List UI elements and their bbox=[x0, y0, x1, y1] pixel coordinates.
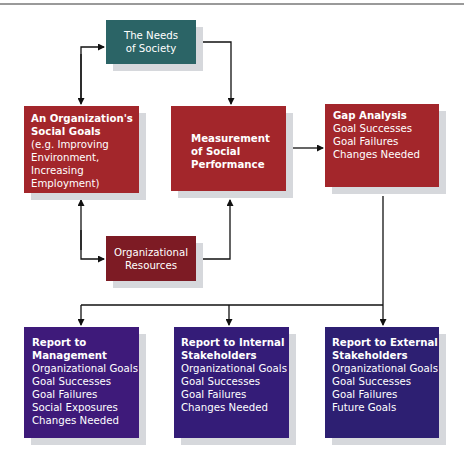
node-measurement-social-performance: Measurement of Social Performance bbox=[171, 106, 286, 191]
node-gap-analysis: Gap Analysis Goal Successes Goal Failure… bbox=[325, 104, 439, 187]
node-line: Social Exposures bbox=[32, 401, 139, 414]
node-title: Performance bbox=[191, 158, 286, 171]
node-line: Organizational Goals bbox=[181, 362, 289, 375]
node-line: Changes Needed bbox=[32, 414, 139, 427]
node-line: Employment) bbox=[31, 177, 139, 190]
node-organizational-resources: Organizational Resources bbox=[106, 236, 196, 281]
node-report-management: Report to Management Organizational Goal… bbox=[24, 327, 139, 438]
node-title: Stakeholders bbox=[332, 349, 439, 362]
node-line: Organizational Goals bbox=[32, 362, 139, 375]
node-label: of Society bbox=[126, 42, 176, 55]
node-needs-of-society: The Needs of Society bbox=[106, 20, 196, 64]
node-line: Changes Needed bbox=[181, 401, 289, 414]
node-line: Goal Successes bbox=[32, 375, 139, 388]
node-label: Organizational bbox=[114, 246, 188, 259]
node-title: Stakeholders bbox=[181, 349, 289, 362]
node-line: Goal Failures bbox=[332, 388, 439, 401]
node-line: Organizational Goals bbox=[332, 362, 439, 375]
node-line: Goal Failures bbox=[333, 135, 439, 148]
node-title: Report to bbox=[32, 336, 139, 349]
node-line: Goal Failures bbox=[181, 388, 289, 401]
node-title: Measurement bbox=[191, 132, 286, 145]
node-title: Management bbox=[32, 349, 139, 362]
node-line: Goal Successes bbox=[333, 122, 439, 135]
node-report-internal: Report to Internal Stakeholders Organiza… bbox=[174, 327, 289, 438]
node-title: Gap Analysis bbox=[333, 109, 439, 122]
node-line: Goal Failures bbox=[32, 388, 139, 401]
node-line: (e.g. Improving bbox=[31, 138, 139, 151]
node-line: Goal Successes bbox=[332, 375, 439, 388]
node-label: The Needs bbox=[124, 29, 178, 42]
node-line: Goal Successes bbox=[181, 375, 289, 388]
node-social-goals: An Organization's Social Goals (e.g. Imp… bbox=[24, 106, 139, 193]
node-line: Increasing bbox=[31, 164, 139, 177]
node-title: Report to External bbox=[332, 336, 439, 349]
node-line: Future Goals bbox=[332, 401, 439, 414]
node-title: An Organization's bbox=[31, 112, 139, 125]
node-report-external: Report to External Stakeholders Organiza… bbox=[325, 327, 439, 438]
node-title: Report to Internal bbox=[181, 336, 289, 349]
node-title: of Social bbox=[191, 145, 286, 158]
node-line: Environment, bbox=[31, 151, 139, 164]
node-line: Changes Needed bbox=[333, 148, 439, 161]
node-label: Resources bbox=[125, 259, 177, 272]
node-title: Social Goals bbox=[31, 125, 139, 138]
